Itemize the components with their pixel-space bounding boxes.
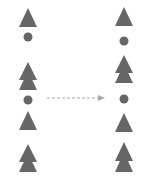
left-column bbox=[19, 8, 37, 172]
sequence-diagram bbox=[0, 0, 145, 187]
double-triangle-icon bbox=[115, 142, 133, 172]
triangle-icon bbox=[115, 7, 133, 26]
double-triangle-icon bbox=[19, 144, 37, 172]
dot-icon bbox=[120, 95, 129, 104]
double-triangle-icon bbox=[115, 55, 133, 83]
right-column bbox=[115, 7, 133, 172]
triangle-icon bbox=[19, 111, 37, 130]
dot-icon bbox=[24, 33, 33, 42]
double-triangle-icon bbox=[19, 62, 37, 90]
dot-icon bbox=[120, 37, 129, 46]
dot-icon bbox=[24, 96, 33, 105]
triangle-icon bbox=[115, 113, 133, 132]
triangle-icon bbox=[19, 8, 37, 27]
arrowhead-icon bbox=[98, 95, 105, 101]
transform-arrow bbox=[47, 95, 105, 101]
